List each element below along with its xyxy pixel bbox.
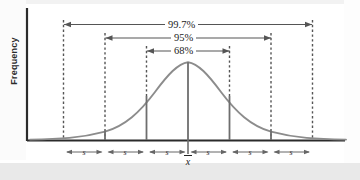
- arrowhead-left-68: [147, 48, 154, 53]
- sd-label-1: s: [79, 148, 89, 157]
- arrowhead-left-95: [106, 35, 113, 40]
- arrowhead-right-95: [264, 35, 271, 40]
- sd-label-2: s: [120, 148, 130, 157]
- sd-label-5: s: [245, 148, 255, 157]
- interval-label-68: 68%: [171, 45, 196, 56]
- interval-label-95: 95%: [171, 32, 196, 43]
- arrowhead-right-997: [305, 22, 312, 27]
- sd-label-6: s: [286, 148, 296, 157]
- arrowhead-left-997: [64, 22, 71, 27]
- y-axis-label: Frequency: [9, 31, 19, 91]
- arrowhead-right-68: [223, 48, 230, 53]
- figure-container: Frequency 99.7% 95% 68% s s s s s s x: [0, 0, 360, 180]
- sd-label-4: s: [203, 148, 213, 157]
- interval-label-997: 99.7%: [165, 19, 198, 30]
- mean-label-xbar: x: [180, 155, 196, 167]
- sd-label-3: s: [162, 148, 172, 157]
- mean-label-text: x: [186, 156, 190, 167]
